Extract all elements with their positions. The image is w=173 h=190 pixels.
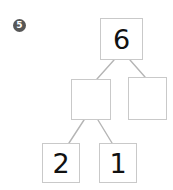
connector-mid-to-bot-right <box>98 120 112 143</box>
connector-top-to-mid-left <box>97 60 114 79</box>
tree-node-top-value: 6 <box>113 26 130 53</box>
tree-node-bottom-left-value: 2 <box>52 150 69 177</box>
tree-node-bottom-right-value: 1 <box>109 150 126 177</box>
question-number-badge: 5 <box>13 19 26 32</box>
tree-node-middle-right[interactable] <box>128 77 167 120</box>
connector-top-to-mid-right <box>130 60 145 77</box>
worksheet-page: 5 6 2 1 <box>0 0 173 190</box>
tree-node-middle-left[interactable] <box>71 79 111 120</box>
connector-mid-to-bot-left <box>69 120 84 143</box>
tree-node-bottom-left[interactable]: 2 <box>42 143 80 183</box>
tree-node-top[interactable]: 6 <box>100 18 143 60</box>
tree-node-bottom-right[interactable]: 1 <box>99 143 137 183</box>
